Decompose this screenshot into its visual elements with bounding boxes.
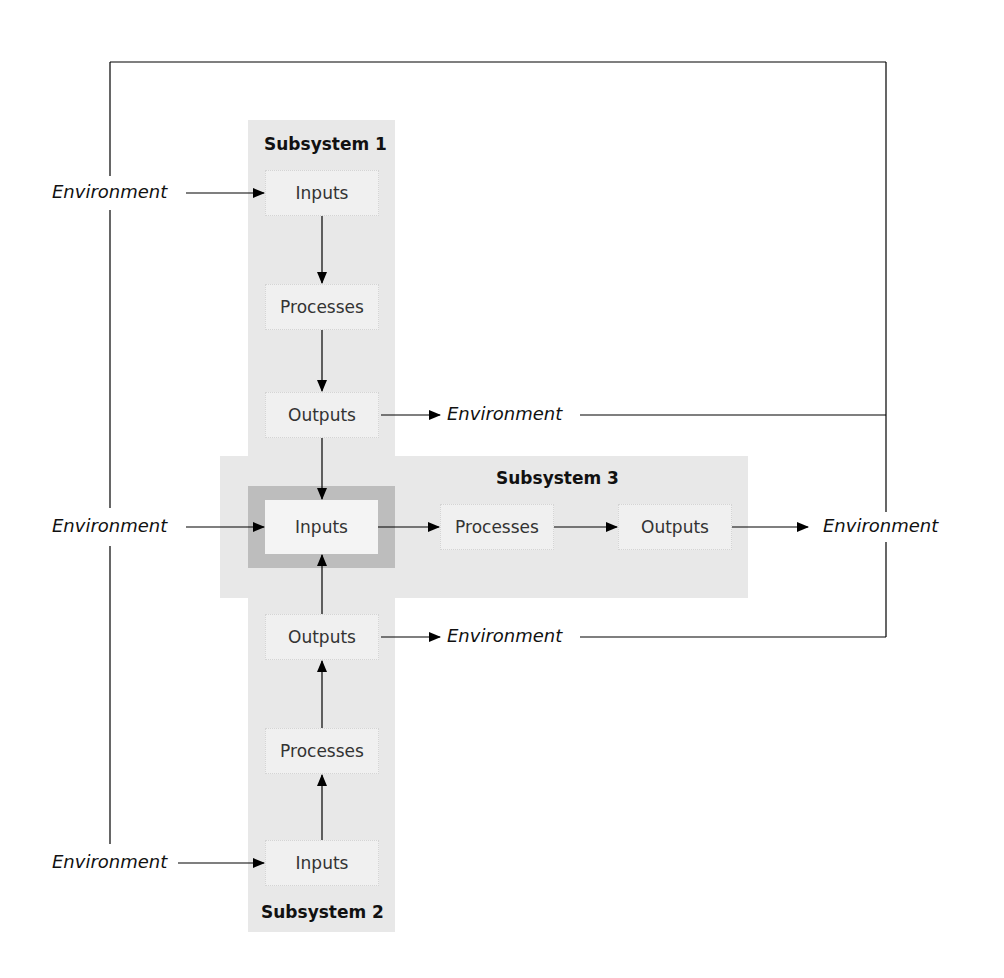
connector-lines: [0, 0, 1004, 978]
environment-label-left-top: Environment: [52, 181, 167, 202]
shared-inputs-box: Inputs: [265, 500, 378, 554]
environment-label-s3-output: Environment: [823, 515, 938, 536]
subsystem-1-inputs-box: Inputs: [265, 170, 379, 216]
subsystem-2-processes-box: Processes: [265, 728, 379, 774]
subsystem-1-title: Subsystem 1: [264, 134, 387, 154]
environment-label-s2-output: Environment: [447, 625, 562, 646]
subsystem-2-title: Subsystem 2: [261, 902, 384, 922]
subsystem-2-inputs-box: Inputs: [265, 840, 379, 886]
subsystem-3-processes-box: Processes: [440, 504, 554, 550]
subsystem-3-title: Subsystem 3: [496, 468, 619, 488]
subsystem-2-outputs-box: Outputs: [265, 614, 379, 660]
environment-label-left-middle: Environment: [52, 515, 167, 536]
subsystem-3-outputs-box: Outputs: [618, 504, 732, 550]
environment-label-s1-output: Environment: [447, 403, 562, 424]
subsystem-1-outputs-box: Outputs: [265, 392, 379, 438]
environment-label-left-bottom: Environment: [52, 851, 167, 872]
subsystem-1-processes-box: Processes: [265, 284, 379, 330]
